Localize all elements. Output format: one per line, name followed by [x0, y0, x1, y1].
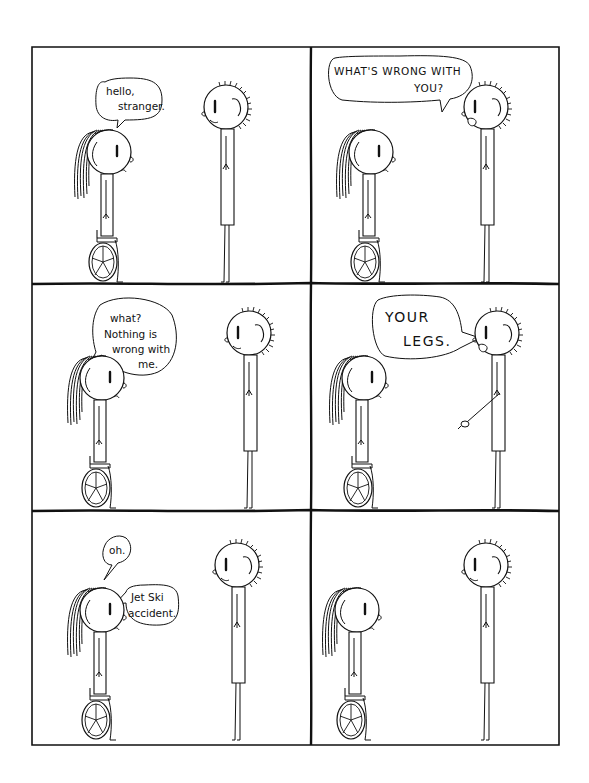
boy-character [213, 539, 263, 740]
bubble-line: me. [138, 358, 158, 370]
bubble-line: Nothing is [104, 328, 157, 340]
panel-3: what? Nothing is wrong with me. [68, 298, 275, 508]
boy-character [225, 307, 275, 508]
girl-character [68, 588, 127, 740]
bubble-line: stranger. [118, 100, 165, 112]
panel-5: oh. Jet Ski accident. [68, 536, 263, 740]
bubble-line: YOU? [413, 82, 444, 94]
bubble-line: wrong with [112, 343, 170, 355]
boy-character [202, 81, 252, 282]
panel-2: WHAT'S WRONG WITH YOU? [329, 56, 512, 282]
bubble-line: oh. [109, 544, 125, 556]
boy-character [473, 307, 523, 508]
panel-4: YOUR LEGS. [330, 295, 523, 508]
panel-6 [323, 539, 512, 740]
bubble-line: YOUR [384, 309, 430, 325]
bubble-line: what? [110, 312, 141, 324]
girl-character [68, 356, 127, 508]
boy-character [462, 81, 512, 282]
bubble-line: accident. [128, 607, 176, 619]
speech-bubble [372, 295, 480, 359]
bubble-line: hello, [106, 85, 135, 97]
girl-character [75, 130, 134, 282]
bubble-line: WHAT'S WRONG WITH [334, 65, 461, 77]
bubble-line: Jet Ski [130, 591, 164, 603]
speech-bubble [103, 536, 131, 580]
panel-1: hello, stranger. [75, 78, 252, 282]
comic-strip: hello, stranger. WHAT'S WRONG WITH YOU? … [0, 0, 589, 783]
girl-character [330, 356, 389, 508]
bubble-line: LEGS. [403, 333, 451, 349]
girl-character [337, 130, 396, 282]
boy-character [462, 539, 512, 740]
girl-character [323, 588, 382, 740]
